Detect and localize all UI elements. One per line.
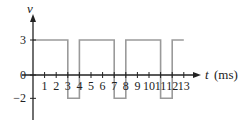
- x-axis-label-unit: (ms): [214, 67, 238, 82]
- x-tick-label: 10: [143, 79, 155, 93]
- x-tick-label: 3: [65, 79, 71, 93]
- y-tick-label: 3: [20, 33, 26, 47]
- x-tick-label: 8: [123, 79, 129, 93]
- x-tick-label: 13: [178, 79, 190, 93]
- x-tick-label: 7: [111, 79, 117, 93]
- square-wave-chart: 1234567891011121330−2vt(ms): [0, 0, 243, 124]
- x-axis-label-var: t: [205, 67, 209, 82]
- y-tick-label: 0: [20, 68, 26, 82]
- x-axis-arrow-icon: [193, 72, 201, 78]
- y-axis-label: v: [27, 1, 33, 16]
- x-tick-label: 4: [76, 79, 82, 93]
- axes: [22, 14, 201, 120]
- x-tick-label: 11: [155, 79, 167, 93]
- x-tick-label: 5: [88, 79, 94, 93]
- x-tick-label: 9: [134, 79, 140, 93]
- x-tick-label: 2: [53, 79, 59, 93]
- x-tick-label: 1: [42, 79, 48, 93]
- x-tick-label: 12: [166, 79, 178, 93]
- y-tick-label: −2: [13, 91, 26, 105]
- x-tick-label: 6: [100, 79, 106, 93]
